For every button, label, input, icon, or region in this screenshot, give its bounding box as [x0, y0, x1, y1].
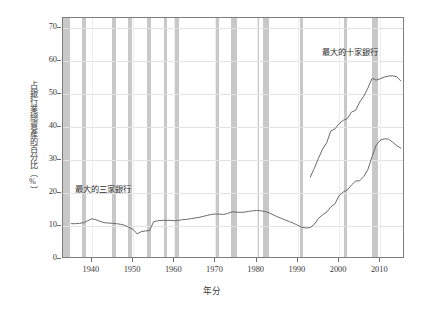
y-axis-tick: [57, 192, 61, 193]
x-axis-tick: [173, 258, 174, 262]
y-axis-tick: [57, 60, 61, 61]
x-axis-tick-label: 1970: [194, 265, 234, 274]
y-axis-tick-label: 50: [35, 88, 57, 97]
y-axis-tick: [57, 126, 61, 127]
series-line: [310, 76, 401, 177]
x-axis-tick-label: 2010: [359, 265, 399, 274]
x-axis-title: 年分: [0, 284, 423, 296]
x-axis-tick: [132, 258, 133, 262]
chart-figure: 占銀行業總資產的百分比（%） 010203040506070 194019501…: [0, 0, 423, 311]
y-axis-tick-label: 40: [35, 121, 57, 130]
x-axis-tick: [91, 258, 92, 262]
y-axis-tick: [57, 225, 61, 226]
x-axis-tick: [297, 258, 298, 262]
y-axis-tick-label: 20: [35, 187, 57, 196]
y-axis-tick-label: 70: [35, 22, 57, 31]
series-annotation-ten-banks: 最大的十家銀行: [322, 45, 378, 57]
x-axis-tick: [214, 258, 215, 262]
y-axis-tick: [57, 159, 61, 160]
y-axis-tick-label: 30: [35, 154, 57, 163]
x-axis-tick-label: 1980: [236, 265, 276, 274]
x-axis-tick: [256, 258, 257, 262]
x-axis-tick: [338, 258, 339, 262]
x-axis-tick-label: 2000: [318, 265, 358, 274]
y-axis-tick: [57, 27, 61, 28]
y-axis-tick-label: 60: [35, 55, 57, 64]
y-axis-tick-label: 0: [35, 253, 57, 262]
y-axis-tick: [57, 258, 61, 259]
x-axis-tick: [379, 258, 380, 262]
y-axis-tick-label: 10: [35, 220, 57, 229]
y-axis-tick: [57, 93, 61, 94]
x-axis-tick-label: 1940: [71, 265, 111, 274]
x-axis-tick-label: 1990: [277, 265, 317, 274]
x-axis-tick-label: 1950: [112, 265, 152, 274]
series-annotation-three-banks: 最大的三家銀行: [75, 182, 131, 194]
x-axis-tick-label: 1960: [153, 265, 193, 274]
